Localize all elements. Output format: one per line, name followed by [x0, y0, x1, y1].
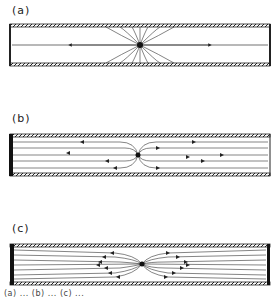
flow-diagram — [0, 0, 278, 298]
panel-c — [10, 244, 270, 285]
panel-a — [10, 24, 270, 66]
panel-b — [9, 134, 270, 176]
caption-fragment: (a) ... (b) ... (c) ... — [4, 289, 84, 298]
